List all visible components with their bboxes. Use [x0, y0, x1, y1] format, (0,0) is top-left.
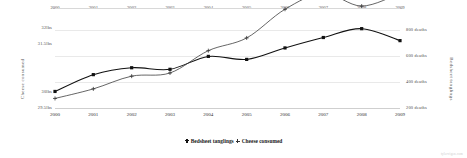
left-tick-label: 32lbs	[14, 25, 52, 30]
data-point[interactable]	[322, 36, 325, 39]
plus-marker-icon	[236, 139, 240, 143]
data-point[interactable]	[245, 36, 249, 40]
x-tick-label-bottom: 2008	[357, 112, 367, 117]
data-point[interactable]	[91, 87, 95, 91]
plot-top-border	[55, 8, 400, 9]
x-tick-label-bottom: 2006	[280, 112, 290, 117]
data-point[interactable]	[168, 71, 172, 75]
x-tick-label-bottom: 2000	[50, 112, 60, 117]
right-tick-label: 600 deaths	[406, 53, 427, 58]
watermark: tylervigen.com	[441, 152, 463, 156]
left-tick-label: 31.5lbs	[14, 41, 52, 46]
data-point[interactable]	[283, 46, 286, 49]
plot-area	[55, 22, 400, 108]
chart-container: Cheese consumed Bedsheet tanglings 20002…	[0, 0, 467, 158]
series-lines	[55, 22, 400, 108]
data-point[interactable]	[130, 66, 133, 69]
legend-item-cheese-consumed[interactable]: Cheese consumed	[235, 138, 284, 144]
data-point[interactable]	[207, 55, 210, 58]
x-tick-label-bottom: 2007	[318, 112, 328, 117]
data-point[interactable]	[130, 74, 134, 78]
data-point[interactable]	[245, 58, 248, 61]
data-point[interactable]	[168, 68, 171, 71]
data-point[interactable]	[398, 39, 401, 42]
x-tick-label-bottom: 2001	[88, 112, 98, 117]
legend-item-bedsheet-tanglings[interactable]: Bedsheet tanglings	[184, 138, 235, 144]
series-line	[55, 0, 400, 98]
filled-square-marker-icon	[185, 139, 189, 143]
series-cheese-consumed	[53, 0, 402, 100]
x-tick-label-bottom: 2005	[242, 112, 252, 117]
right-tick-label: 200 deaths	[406, 105, 427, 110]
left-tick-label: 30lbs	[14, 89, 52, 94]
x-tick-label-bottom: 2002	[127, 112, 137, 117]
legend-label: Bedsheet tanglings	[191, 138, 234, 144]
data-point[interactable]	[206, 49, 210, 53]
data-point[interactable]	[92, 73, 95, 76]
data-point[interactable]	[53, 96, 57, 100]
x-tick-label-bottom: 2004	[203, 112, 213, 117]
right-tick-label: 400 deaths	[406, 79, 427, 84]
plot-bottom-border	[55, 108, 400, 109]
series-line	[55, 29, 400, 92]
right-tick-label: 800 deaths	[406, 27, 427, 32]
series-bedsheet-tanglings	[53, 27, 401, 93]
data-point[interactable]	[360, 27, 363, 30]
data-point[interactable]	[53, 90, 56, 93]
chart-legend: Bedsheet tanglings Cheese consumed	[0, 138, 467, 144]
left-tick-label: 29.5lbs	[14, 105, 52, 110]
x-tick-label-bottom: 2009	[395, 112, 405, 117]
right-axis-title: Bedsheet tanglings	[449, 57, 454, 100]
x-tick-label-bottom: 2003	[165, 112, 175, 117]
legend-label: Cheese consumed	[242, 138, 283, 144]
